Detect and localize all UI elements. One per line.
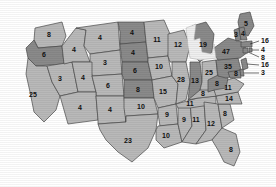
value-MO: 15 <box>159 88 167 95</box>
value-MD: 8 <box>234 70 238 77</box>
state-RI[interactable] <box>249 48 252 52</box>
value-WI: 12 <box>174 41 182 48</box>
callout-value-NJ: 16 <box>261 61 269 68</box>
value-VA: 11 <box>224 84 232 91</box>
value-WY: 3 <box>103 59 107 66</box>
value-GA: 12 <box>207 120 215 127</box>
value-TN: 11 <box>186 100 194 107</box>
value-NV: 3 <box>58 75 62 82</box>
value-MN: 11 <box>153 36 161 43</box>
us-map-figure: 8 6 25 3 4 4 3 4 6 4 4 4 4 6 8 10 23 11 … <box>0 0 276 187</box>
us-choropleth-svg: 8 6 25 3 4 4 3 4 6 4 4 4 4 6 8 10 23 11 … <box>0 0 276 187</box>
value-OK: 10 <box>137 103 145 110</box>
leader-CT <box>248 52 259 57</box>
state-NJ[interactable] <box>241 58 248 70</box>
state-CT[interactable] <box>243 48 248 53</box>
value-SD: 4 <box>131 49 135 56</box>
value-IA: 10 <box>155 63 163 70</box>
value-AL: 11 <box>192 116 200 123</box>
value-PA: 35 <box>224 63 232 70</box>
value-ND: 4 <box>130 29 134 36</box>
value-NE: 6 <box>133 67 137 74</box>
value-NY: 47 <box>222 48 230 55</box>
value-MS: 9 <box>182 116 186 123</box>
value-AR: 9 <box>165 111 169 118</box>
value-TX: 23 <box>124 137 132 144</box>
value-WV: 8 <box>215 80 219 87</box>
value-LA: 10 <box>162 132 170 139</box>
value-SC: 8 <box>223 110 227 117</box>
value-IL: 28 <box>177 76 185 83</box>
value-NH: 4 <box>241 30 245 37</box>
value-IN: 13 <box>191 77 199 84</box>
value-MI: 19 <box>199 41 207 48</box>
callout-value-CT: 8 <box>261 54 265 61</box>
value-KY: 8 <box>201 90 205 97</box>
value-VT: 3 <box>234 31 238 38</box>
value-CO: 6 <box>106 82 110 89</box>
callout-value-MA: 16 <box>261 37 269 44</box>
value-FL: 8 <box>229 146 233 153</box>
value-OH: 25 <box>205 69 213 76</box>
value-OR: 6 <box>42 51 46 58</box>
value-ID: 4 <box>72 46 76 53</box>
state-NE[interactable] <box>122 62 152 80</box>
value-WA: 8 <box>47 31 51 38</box>
value-NC: 14 <box>225 95 233 102</box>
leader-NJ <box>247 64 259 65</box>
value-UT: 4 <box>81 74 85 81</box>
value-AZ: 4 <box>78 104 82 111</box>
value-CA: 25 <box>29 91 37 98</box>
value-ME: 5 <box>244 20 248 27</box>
callout-value-RI: 4 <box>261 46 265 53</box>
callout-value-DE: 3 <box>261 69 265 76</box>
value-MT: 4 <box>98 34 102 41</box>
value-NM: 4 <box>108 106 112 113</box>
value-KS: 8 <box>136 86 140 93</box>
